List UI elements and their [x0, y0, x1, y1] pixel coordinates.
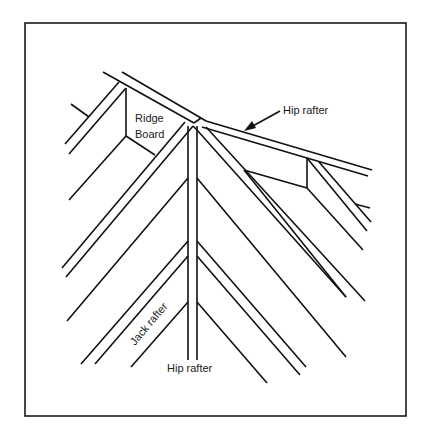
right-rafters [197, 127, 365, 301]
right-jack-rafters [197, 178, 346, 383]
left-common-rafter [65, 82, 126, 154]
roof-framing-diagram: Ridge Board Hip rafter Hip rafter Jack r… [0, 0, 424, 433]
right-mid-rafter [244, 170, 346, 297]
hip-rafter-arrow-icon [244, 111, 280, 131]
jack-rafter-label: Jack rafter [127, 300, 169, 347]
right-hip-rafter [202, 121, 372, 176]
ridge-board-label-line1: Ridge [135, 112, 164, 124]
left-hip-rafter [62, 122, 193, 277]
far-right-rafters [307, 158, 371, 231]
diagram-frame [25, 23, 406, 416]
hip-rafter-bottom-label: Hip rafter [167, 362, 213, 374]
ridge-board-label-line2: Board [135, 128, 164, 140]
vertical-hip-rafter [188, 126, 197, 360]
left-rafter [69, 136, 126, 200]
hip-rafter-top-label: Hip rafter [283, 104, 329, 116]
